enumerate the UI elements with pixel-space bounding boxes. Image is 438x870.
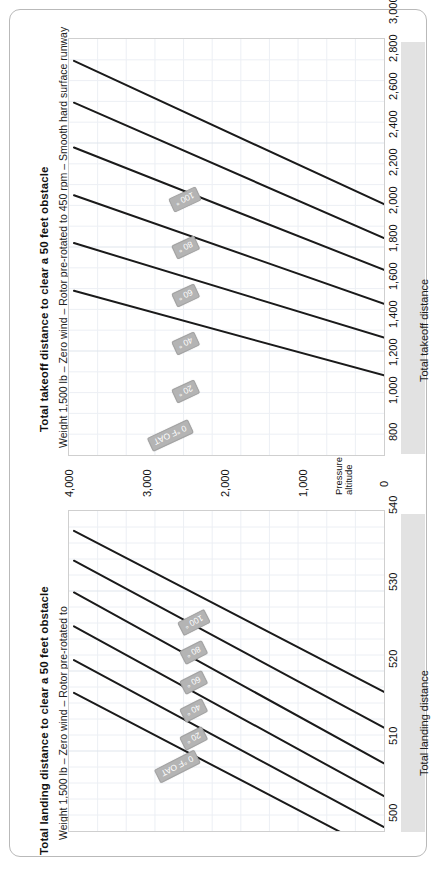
landing-xtick-520: 520 — [387, 650, 399, 668]
takeoff-curve-100 — [74, 61, 384, 204]
takeoff-xaxis-name: Total takeoff distance — [418, 279, 430, 382]
landing-curve-20 — [74, 660, 384, 827]
takeoff-curve-80 — [74, 103, 384, 238]
takeoff-oat-curves — [74, 61, 384, 375]
takeoff-xtick-2400: 2,400 — [387, 110, 399, 138]
figure: Total takeoff distance to clear a 50 fee… — [0, 0, 438, 870]
takeoff-plot-area: 100 ° 80 ° 60 ° 40 ° 20 ° 0 °F OAT — [68, 38, 385, 456]
takeoff-curve-40 — [74, 195, 384, 303]
takeoff-xtick-1400: 1,400 — [387, 300, 399, 328]
takeoff-grid-major — [69, 143, 384, 351]
takeoff-xtick-2600: 2,600 — [387, 72, 399, 100]
takeoff-xtick-1800: 1,800 — [387, 224, 399, 252]
landing-xtick-510: 510 — [387, 727, 399, 745]
landing-curve-40 — [74, 626, 384, 796]
panel-landing: Total landing distance to clear a 50 fee… — [0, 440, 438, 870]
takeoff-xtick-2000: 2,000 — [387, 186, 399, 214]
landing-oat-curves — [74, 531, 384, 831]
takeoff-xtick-2200: 2,200 — [387, 148, 399, 176]
takeoff-xtick-3000: 3,000 — [387, 0, 399, 24]
landing-curve-0 — [74, 693, 384, 831]
takeoff-xtick-2800: 2,800 — [387, 34, 399, 62]
landing-xtick-500: 500 — [387, 804, 399, 822]
takeoff-xtick-1200: 1,200 — [387, 338, 399, 366]
landing-xaxis-name-band: Total landing distance — [401, 514, 425, 832]
landing-panel-title: Total landing distance to clear a 50 fee… — [38, 586, 50, 855]
takeoff-curve-20 — [74, 243, 384, 338]
landing-xtick-540: 540 — [387, 496, 399, 514]
takeoff-curve-60 — [74, 147, 384, 269]
landing-xaxis-name: Total landing distance — [418, 670, 430, 776]
landing-plot-area: 100 ° 80 ° 60 ° 40 ° 20 ° 0 °F OAT — [68, 510, 385, 832]
takeoff-plot-svg — [69, 39, 384, 455]
takeoff-curve-0 — [74, 291, 384, 376]
landing-curve-60 — [74, 592, 384, 763]
landing-xtick-530: 530 — [387, 573, 399, 591]
takeoff-xaxis-name-band: Total takeoff distance — [401, 42, 425, 454]
takeoff-panel-title: Total takeoff distance to clear a 50 fee… — [38, 166, 50, 432]
panel-takeoff: Total takeoff distance to clear a 50 fee… — [0, 0, 438, 440]
takeoff-xtick-1600: 1,600 — [387, 262, 399, 290]
landing-plot-svg — [69, 511, 384, 831]
takeoff-xtick-1000: 1,000 — [387, 376, 399, 404]
landing-curve-100 — [74, 531, 384, 692]
takeoff-xtick-800: 800 — [387, 423, 399, 441]
